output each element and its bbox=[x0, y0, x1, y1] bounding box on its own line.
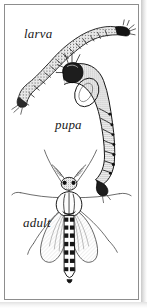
life-cycle-illustration bbox=[5, 5, 138, 299]
plate-frame: larva pupa adult bbox=[4, 4, 139, 300]
page-edge-shadow-right bbox=[141, 0, 147, 308]
figure-label-pupa: pupa bbox=[55, 118, 82, 131]
figure-label-larva: larva bbox=[24, 27, 52, 40]
illustration-plate: larva pupa adult bbox=[0, 0, 147, 308]
figure-label-adult: adult bbox=[23, 216, 51, 229]
page-edge-shadow-bottom bbox=[0, 302, 147, 308]
